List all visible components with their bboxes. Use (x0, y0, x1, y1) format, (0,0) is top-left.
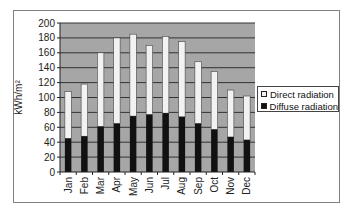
legend-label-diffuse: Diffuse radiation (270, 101, 338, 112)
bar-direct (227, 90, 234, 137)
y-tick-label: 140 (38, 62, 55, 73)
y-tick-label: 20 (44, 152, 56, 163)
y-tick-label: 40 (44, 137, 56, 148)
bar-direct (97, 53, 104, 127)
y-tick-label: 120 (38, 77, 55, 88)
x-tick-label: Aug (176, 177, 187, 195)
bar-direct (211, 71, 218, 129)
bar-diffuse (146, 115, 153, 172)
x-tick-label: Sep (193, 177, 204, 195)
bar-direct (195, 62, 202, 124)
y-tick-label: 0 (49, 167, 55, 178)
bar-direct (65, 92, 72, 139)
x-tick-label: Jun (144, 177, 155, 193)
bar-direct (244, 96, 251, 140)
bar-direct (146, 45, 153, 114)
y-tick-label: 200 (38, 18, 55, 29)
bar-diffuse (97, 127, 104, 172)
bar-diffuse (179, 117, 186, 172)
x-tick-label: Nov (225, 177, 236, 195)
x-tick-label: May (128, 177, 139, 196)
bar-diffuse (65, 138, 72, 172)
y-tick-label: 60 (44, 122, 56, 133)
x-tick-label: Apr (111, 176, 122, 192)
x-tick-label: Mar (95, 176, 106, 194)
bar-diffuse (244, 140, 251, 172)
legend-item-diffuse: Diffuse radiation (261, 100, 338, 112)
legend-label-direct: Direct radiation (270, 89, 334, 100)
y-tick-label: 80 (44, 107, 56, 118)
bar-direct (114, 38, 121, 124)
bar-diffuse (130, 116, 137, 172)
bar-diffuse (162, 113, 169, 172)
legend-swatch-diffuse (261, 103, 267, 109)
y-tick-label: 100 (38, 92, 55, 103)
legend-item-direct: Direct radiation (261, 88, 338, 100)
bar-direct (130, 34, 137, 116)
bar-diffuse (227, 137, 234, 172)
bar-direct (179, 42, 186, 117)
bar-diffuse (211, 130, 218, 172)
bar-direct (162, 36, 169, 113)
y-tick-label: 160 (38, 47, 55, 58)
bar-diffuse (195, 124, 202, 172)
x-tick-label: Feb (79, 177, 90, 195)
bar-diffuse (114, 124, 121, 172)
y-tick-label: 180 (38, 32, 55, 43)
x-tick-label: Jul (160, 177, 171, 190)
x-tick-label: Jan (63, 177, 74, 193)
x-tick-label: Dec (241, 177, 252, 195)
legend-swatch-direct (261, 91, 267, 97)
bar-diffuse (81, 136, 88, 172)
bar-direct (81, 84, 88, 136)
y-axis-label: kWh/m² (13, 80, 24, 115)
x-tick-label: Oct (209, 177, 220, 193)
legend: Direct radiation Diffuse radiation (257, 86, 339, 112)
